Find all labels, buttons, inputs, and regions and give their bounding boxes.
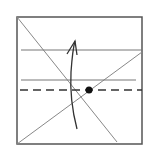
reference-point bbox=[86, 87, 93, 94]
diagram-svg bbox=[0, 0, 148, 153]
fold-diagram bbox=[0, 0, 148, 153]
